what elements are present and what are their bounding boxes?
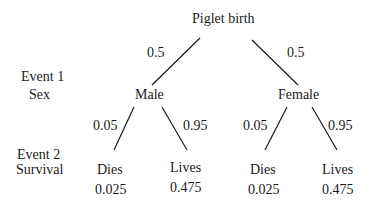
root-node-label: Piglet birth — [192, 11, 255, 27]
node-male: Male — [135, 87, 164, 103]
joint-prob-female-dies: 0.025 — [248, 182, 280, 198]
joint-prob-female-lives: 0.475 — [322, 182, 354, 198]
prob-male-lives: 0.95 — [183, 118, 208, 134]
node-female-dies: Dies — [250, 162, 276, 178]
edge-female-dies — [265, 107, 287, 150]
node-male-lives: Lives — [170, 160, 201, 176]
node-female: Female — [278, 87, 319, 103]
row-label-survival: Survival — [16, 162, 63, 178]
node-female-lives: Lives — [322, 162, 353, 178]
node-male-dies: Dies — [97, 162, 123, 178]
row-label-event2: Event 2 — [17, 147, 60, 163]
prob-root-female: 0.5 — [287, 45, 305, 61]
row-label-event1: Event 1 — [21, 69, 64, 85]
joint-prob-male-dies: 0.025 — [95, 182, 127, 198]
prob-male-dies: 0.05 — [93, 118, 118, 134]
prob-female-dies: 0.05 — [243, 118, 268, 134]
row-label-sex: Sex — [29, 87, 50, 103]
joint-prob-male-lives: 0.475 — [170, 180, 202, 196]
prob-female-lives: 0.95 — [328, 118, 353, 134]
prob-root-male: 0.5 — [147, 45, 165, 61]
